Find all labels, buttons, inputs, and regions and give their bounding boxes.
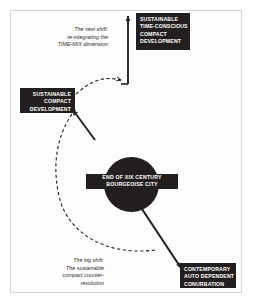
node-label-line: SUSTAINABLE [140,16,186,23]
annotation-line: re-integrating the [24,34,108,42]
node-label-line: BOURGEOISE CITY [86,181,178,188]
node-label-line: CONURBATION [184,281,232,288]
node-label-line: CONTEMPORARY [184,266,232,273]
node-label-line: END OF XIX CENTURY [86,174,178,181]
node-label-line: TIME-CONSCIOUS [140,23,186,30]
annotation-next-shift: The next shift: re-integrating the TIME-… [24,26,108,49]
node-label-line: AUTO DEPENDENT [184,273,232,280]
connector-next-shift-arc [76,79,121,94]
annotation-line: revolution [18,280,104,288]
annotation-big-shift: The big shift: The sustainable compact c… [18,257,104,287]
node-contemporary-auto-dependent-conurbation: CONTEMPORARY AUTO DEPENDENT CONURBATION [180,263,236,288]
node-label-line: DEVELOPMENT [24,106,71,113]
connector-arc-to-sustainable-compact [73,110,95,140]
node-label-line: COMPACT [140,31,186,38]
diagram-root: SUSTAINABLE TIME-CONSCIOUS COMPACT DEVEL… [0,0,254,308]
node-sustainable-time-conscious-compact-development: SUSTAINABLE TIME-CONSCIOUS COMPACT DEVEL… [136,13,190,50]
connector-origin-to-contemporary [140,206,181,268]
annotation-line: The big shift: [18,257,104,265]
annotation-line: compact counter- [18,272,104,280]
annotation-line: The sustainable [18,265,104,273]
node-sustainable-compact-development: SUSTAINABLE COMPACT DEVELOPMENT [20,88,75,113]
annotation-line: The next shift: [24,26,108,34]
annotation-line: TIME-MIX dimension [24,41,108,49]
node-label-line: COMPACT [24,98,71,105]
node-end-of-xix-century-bourgeoise-city-label: END OF XIX CENTURY BOURGEOISE CITY [86,174,178,189]
node-label-line: DEVELOPMENT [140,38,186,45]
node-label-line: SUSTAINABLE [24,91,71,98]
